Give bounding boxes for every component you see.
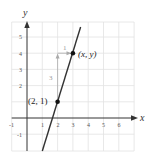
x-tick-labels: -1 1 2 3 4 5 6	[9, 122, 121, 128]
graph-line	[42, 27, 80, 151]
grid	[12, 22, 134, 151]
point-x-y	[71, 51, 76, 56]
rise-arrow-icon	[56, 54, 60, 59]
point-2-1-label: (2, 1)	[28, 96, 48, 106]
x-tick: 2	[57, 122, 60, 128]
x-axis-label: x	[139, 112, 145, 123]
y-tick: -1	[17, 132, 22, 138]
x-tick: 6	[118, 122, 121, 128]
x-tick: 4	[87, 122, 90, 128]
x-tick: -1	[9, 122, 14, 128]
point-x-y-label: (x, y)	[78, 49, 96, 59]
y-tick: 3	[19, 67, 22, 73]
y-tick: 4	[19, 51, 22, 57]
run-label: 1	[63, 44, 67, 52]
y-tick: 2	[19, 83, 22, 89]
point-2-1	[55, 100, 60, 105]
y-tick: 5	[19, 34, 22, 40]
y-axis-label: y	[22, 7, 28, 18]
x-tick: 5	[102, 122, 105, 128]
x-tick: 1	[41, 122, 44, 128]
coordinate-plane: x y -1 1 2 3 4 5 6 5 4 3 2 -1 3 1 (2, 1)…	[0, 0, 152, 159]
rise-label: 3	[49, 74, 53, 82]
x-tick: 3	[72, 122, 75, 128]
